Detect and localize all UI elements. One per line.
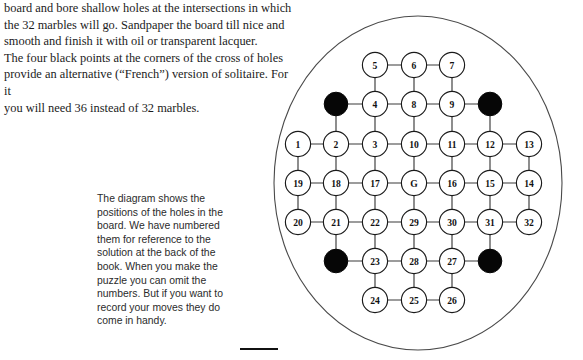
hole-circle[interactable]	[516, 131, 541, 156]
hole-circle[interactable]	[401, 131, 426, 156]
french-hole-node[interactable]	[324, 92, 348, 116]
hole-circle[interactable]	[362, 287, 387, 312]
hole-circle[interactable]	[401, 248, 426, 273]
hole-circle[interactable]	[439, 287, 464, 312]
hole-circle[interactable]	[439, 52, 464, 77]
french-hole-dot[interactable]	[324, 92, 348, 116]
hole-circle[interactable]	[323, 209, 348, 234]
hole-circle[interactable]	[401, 209, 426, 234]
hole-circle[interactable]	[285, 209, 310, 234]
hole-node[interactable]: G	[401, 170, 426, 195]
hole-circle[interactable]	[439, 131, 464, 156]
hole-node[interactable]: 16	[439, 170, 464, 195]
hole-node[interactable]: 11	[439, 131, 464, 156]
page-canvas: board and bore shallow holes at the inte…	[0, 0, 583, 360]
hole-node[interactable]: 30	[439, 209, 464, 234]
hole-node[interactable]: 28	[401, 248, 426, 273]
french-hole-node[interactable]	[478, 249, 502, 273]
diagram-caption-paragraph: The diagram shows the positions of the h…	[97, 192, 247, 328]
hole-node[interactable]: 31	[477, 209, 502, 234]
hole-circle[interactable]	[477, 209, 502, 234]
hole-circle[interactable]	[285, 131, 310, 156]
hole-circle[interactable]	[477, 170, 502, 195]
footer-rule	[240, 348, 278, 350]
hole-circle[interactable]	[516, 209, 541, 234]
hole-circle[interactable]	[362, 131, 387, 156]
hole-node[interactable]: 19	[285, 170, 310, 195]
hole-circle[interactable]	[323, 170, 348, 195]
hole-node[interactable]: 13	[516, 131, 541, 156]
hole-node[interactable]: 25	[401, 287, 426, 312]
hole-circle[interactable]	[362, 209, 387, 234]
hole-node[interactable]: 24	[362, 287, 387, 312]
hole-circle[interactable]	[439, 91, 464, 116]
hole-circle[interactable]	[401, 91, 426, 116]
hole-node[interactable]: 27	[439, 248, 464, 273]
hole-node[interactable]: 17	[362, 170, 387, 195]
hole-circle[interactable]	[362, 170, 387, 195]
french-hole-dot[interactable]	[478, 249, 502, 273]
hole-circle[interactable]	[401, 287, 426, 312]
hole-node[interactable]: 7	[439, 52, 464, 77]
hole-circle[interactable]	[285, 170, 310, 195]
hole-node[interactable]: 2	[323, 131, 348, 156]
hole-circle[interactable]	[323, 131, 348, 156]
hole-circle[interactable]	[439, 209, 464, 234]
hole-node[interactable]: 9	[439, 91, 464, 116]
intro-paragraph: board and bore shallow holes at the inte…	[4, 0, 294, 116]
hole-node[interactable]: 32	[516, 209, 541, 234]
french-hole-dot[interactable]	[324, 249, 348, 273]
hole-node[interactable]: 4	[362, 91, 387, 116]
hole-node[interactable]: 18	[323, 170, 348, 195]
hole-node[interactable]: 22	[362, 209, 387, 234]
hole-node[interactable]: 26	[439, 287, 464, 312]
board-svg: 56748912310111213191817G1615142021222930…	[262, 8, 574, 354]
solitaire-board-diagram: 56748912310111213191817G1615142021222930…	[262, 8, 574, 354]
hole-node[interactable]: 14	[516, 170, 541, 195]
hole-circle[interactable]	[439, 248, 464, 273]
hole-node[interactable]: 21	[323, 209, 348, 234]
hole-node[interactable]: 12	[477, 131, 502, 156]
hole-node[interactable]: 15	[477, 170, 502, 195]
hole-node[interactable]: 23	[362, 248, 387, 273]
hole-circle[interactable]	[439, 170, 464, 195]
french-hole-node[interactable]	[478, 92, 502, 116]
hole-circle[interactable]	[401, 170, 426, 195]
hole-node[interactable]: 5	[362, 52, 387, 77]
hole-node[interactable]: 1	[285, 131, 310, 156]
hole-node[interactable]: 10	[401, 131, 426, 156]
hole-circle[interactable]	[362, 52, 387, 77]
hole-node[interactable]: 3	[362, 131, 387, 156]
hole-circle[interactable]	[401, 52, 426, 77]
hole-node[interactable]: 29	[401, 209, 426, 234]
hole-node[interactable]: 8	[401, 91, 426, 116]
french-hole-dot[interactable]	[478, 92, 502, 116]
hole-circle[interactable]	[362, 91, 387, 116]
hole-circle[interactable]	[516, 170, 541, 195]
hole-node[interactable]: 20	[285, 209, 310, 234]
french-hole-node[interactable]	[324, 249, 348, 273]
hole-node[interactable]: 6	[401, 52, 426, 77]
hole-circle[interactable]	[477, 131, 502, 156]
hole-circle[interactable]	[362, 248, 387, 273]
